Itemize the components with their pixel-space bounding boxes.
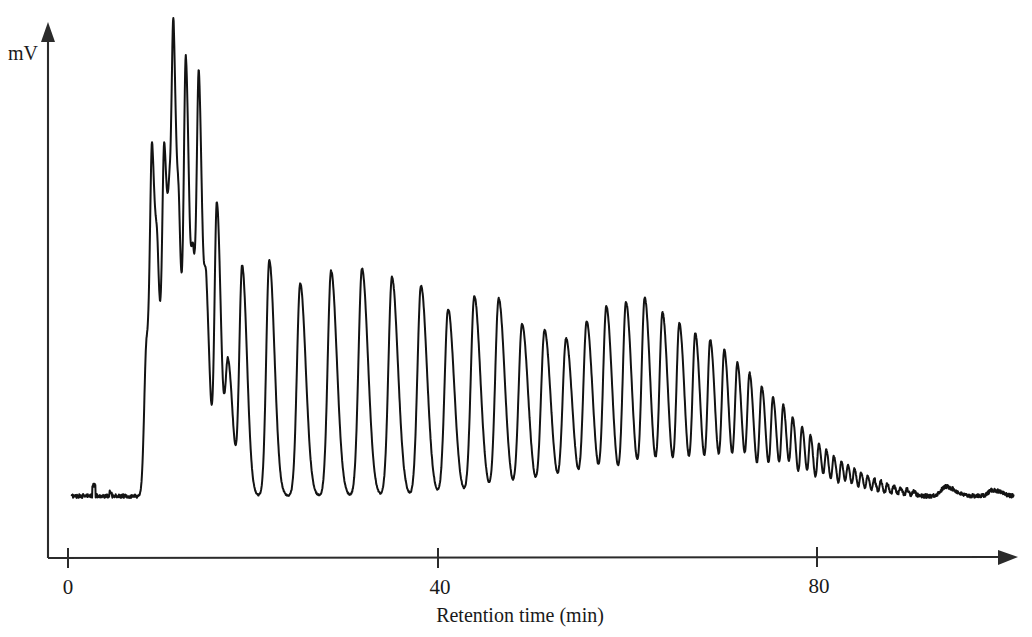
chromatogram-figure: 0 40 80 mV Retention time (min) [0,0,1032,637]
y-axis-title: mV [8,42,39,64]
y-axis-arrowhead [41,22,55,42]
chromatogram-plot: 0 40 80 mV Retention time (min) [0,0,1032,637]
y-axis [41,22,55,558]
x-tick-label-40: 40 [430,575,451,599]
x-axis-line [48,557,1002,558]
x-axis-arrowhead [998,550,1018,565]
x-axis-title: Retention time (min) [436,604,604,627]
x-axis [48,550,1018,565]
x-tick-label-0: 0 [63,575,74,599]
x-tick-label-80: 80 [809,574,830,598]
chromatogram-trace [72,18,1014,498]
